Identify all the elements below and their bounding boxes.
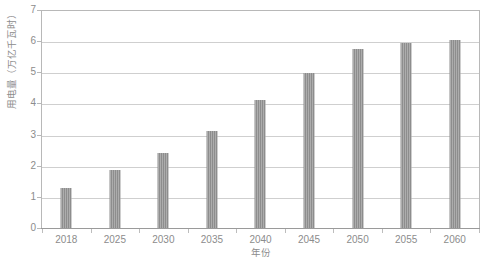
x-tick-label: 2060 [431,234,479,246]
y-tick-label: 0 [6,223,36,233]
x-tick-mark [236,229,237,233]
x-axis-title: 年份 [41,247,480,259]
x-tick-label: 2035 [188,234,236,246]
bar-slot [333,11,382,228]
bar[interactable] [158,153,169,228]
bar-chart-figure: 用电量（万亿千瓦时） 01234567 年份 20182025203020352… [0,0,487,275]
bar-slot [285,11,334,228]
x-tick-mark [479,229,480,233]
y-tick-mark [37,135,41,136]
x-tick-label: 2050 [334,234,382,246]
y-tick-mark [37,228,41,229]
bar[interactable] [255,100,266,228]
y-tick-label: 1 [6,192,36,202]
bar-slot [42,11,91,228]
bar-slot [188,11,237,228]
y-tick-mark [37,72,41,73]
bars-layer [42,11,479,228]
x-axis-line [41,228,480,229]
bar[interactable] [449,40,460,228]
bar[interactable] [304,73,315,228]
x-tick-mark [188,229,189,233]
bar[interactable] [401,43,412,228]
x-tick-mark [139,229,140,233]
bar-slot [91,11,140,228]
bar[interactable] [109,170,120,228]
y-tick-mark [37,197,41,198]
x-tick-label: 2045 [285,234,333,246]
y-tick-label: 4 [6,98,36,108]
bar[interactable] [352,49,363,228]
y-tick-mark [37,10,41,11]
y-tick-label: 5 [6,67,36,77]
y-tick-label: 7 [6,5,36,15]
x-tick-mark [430,229,431,233]
bar-slot [236,11,285,228]
bar[interactable] [61,188,72,228]
bar[interactable] [206,131,217,228]
x-tick-mark [333,229,334,233]
bar-slot [430,11,479,228]
x-tick-mark [42,229,43,233]
y-tick-mark [37,41,41,42]
bar-slot [382,11,431,228]
x-tick-label: 2018 [42,234,90,246]
y-tick-label: 6 [6,36,36,46]
x-tick-label: 2025 [91,234,139,246]
y-tick-mark [37,103,41,104]
bar-slot [139,11,188,228]
y-tick-label: 3 [6,130,36,140]
x-tick-mark [91,229,92,233]
y-tick-label: 2 [6,161,36,171]
x-tick-label: 2055 [382,234,430,246]
y-tick-mark [37,166,41,167]
x-tick-mark [285,229,286,233]
x-tick-label: 2030 [139,234,187,246]
x-tick-label: 2040 [237,234,285,246]
x-tick-mark [382,229,383,233]
y-axis-tick-labels: 01234567 [0,0,36,275]
